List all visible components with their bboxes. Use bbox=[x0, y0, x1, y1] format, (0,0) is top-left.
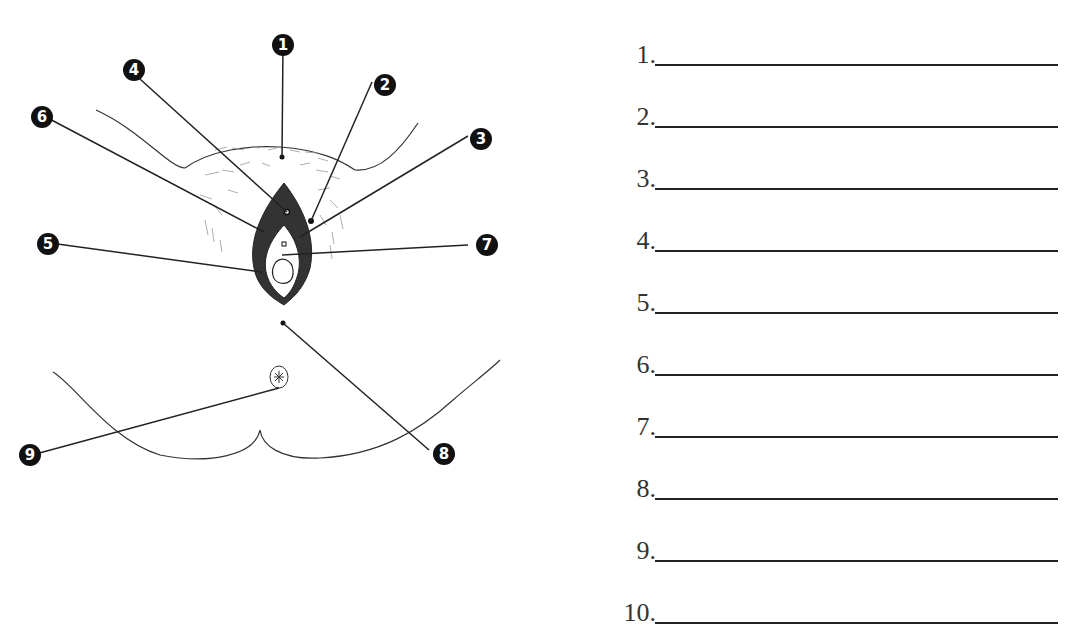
answer-number: 4. bbox=[637, 228, 657, 254]
answer-row: 3. bbox=[600, 156, 1070, 196]
answer-number: 9. bbox=[637, 538, 657, 564]
answer-number: 2. bbox=[637, 104, 657, 130]
answer-blank[interactable] bbox=[655, 374, 1058, 376]
answer-row: 4. bbox=[600, 218, 1070, 258]
answer-blank[interactable] bbox=[655, 622, 1058, 624]
answer-blank[interactable] bbox=[655, 250, 1058, 252]
answer-number: 6. bbox=[637, 352, 657, 378]
diagram-drawing bbox=[0, 0, 560, 500]
answer-row: 10. bbox=[600, 590, 1070, 630]
answer-number: 7. bbox=[637, 414, 657, 440]
callout-marker: 2 bbox=[374, 74, 396, 96]
answer-blank[interactable] bbox=[655, 498, 1058, 500]
labeled-diagram: 1 2 3 4 5 6 7 8 9 bbox=[0, 0, 560, 500]
answer-row: 1. bbox=[600, 32, 1070, 72]
callout-marker: 9 bbox=[19, 444, 41, 466]
answer-row: 7. bbox=[600, 404, 1070, 444]
callout-marker: 8 bbox=[433, 443, 455, 465]
answer-number: 1. bbox=[637, 42, 657, 68]
answer-blank[interactable] bbox=[655, 126, 1058, 128]
answer-blank[interactable] bbox=[655, 436, 1058, 438]
callout-marker: 5 bbox=[37, 233, 59, 255]
leader-lines bbox=[32, 44, 468, 455]
answer-number: 8. bbox=[637, 476, 657, 502]
answer-row: 9. bbox=[600, 528, 1070, 568]
answer-row: 5. bbox=[600, 280, 1070, 320]
answer-row: 2. bbox=[600, 94, 1070, 134]
answer-blank[interactable] bbox=[655, 312, 1058, 314]
callout-marker: 4 bbox=[123, 59, 145, 81]
answer-blank[interactable] bbox=[655, 560, 1058, 562]
answer-blank[interactable] bbox=[655, 188, 1058, 190]
callout-marker: 1 bbox=[272, 34, 294, 56]
answer-blank[interactable] bbox=[655, 64, 1058, 66]
callout-marker: 6 bbox=[31, 106, 53, 128]
callout-marker: 7 bbox=[476, 234, 498, 256]
answer-row: 8. bbox=[600, 466, 1070, 506]
answer-number: 3. bbox=[637, 166, 657, 192]
answer-number: 5. bbox=[637, 290, 657, 316]
answer-row: 6. bbox=[600, 342, 1070, 382]
callout-marker: 3 bbox=[470, 128, 492, 150]
answer-number: 10. bbox=[624, 600, 657, 626]
